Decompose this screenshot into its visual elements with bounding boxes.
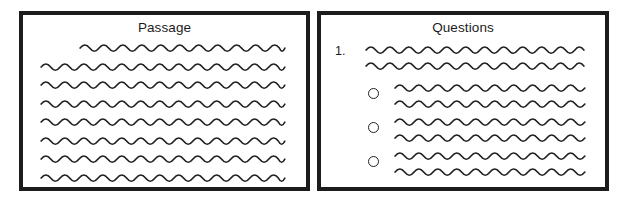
- passage-line: [41, 136, 285, 146]
- passage-line: [41, 173, 285, 183]
- option-radio-3[interactable]: [368, 156, 379, 167]
- question-stem-line: [366, 45, 584, 55]
- option-3-line: [395, 167, 585, 177]
- passage-line: [41, 62, 285, 72]
- passage-line: [41, 80, 285, 90]
- option-radio-1[interactable]: [368, 88, 379, 99]
- option-2-line: [395, 133, 585, 143]
- passage-line: [41, 99, 285, 109]
- questions-panel: Questions 1.: [317, 11, 609, 191]
- option-1-line: [395, 83, 585, 93]
- question-number: 1.: [335, 44, 345, 58]
- question-stem-line: [366, 61, 584, 71]
- passage-line: [80, 43, 285, 53]
- passage-panel-title: Passage: [23, 19, 306, 37]
- option-radio-2[interactable]: [368, 122, 379, 133]
- figure-canvas: Passage Questions 1.: [0, 0, 630, 203]
- passage-line: [41, 117, 285, 127]
- passage-panel: Passage: [19, 11, 310, 191]
- option-3-line: [395, 151, 585, 161]
- option-2-line: [395, 117, 585, 127]
- option-1-line: [395, 99, 585, 109]
- passage-line: [41, 154, 285, 164]
- questions-panel-title: Questions: [321, 19, 605, 37]
